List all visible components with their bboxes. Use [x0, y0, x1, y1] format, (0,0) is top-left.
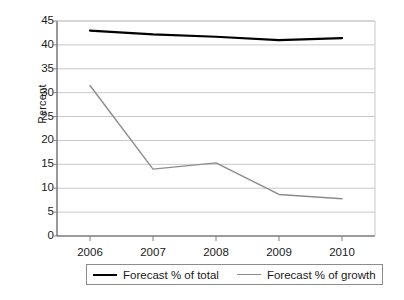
series-lines	[90, 31, 342, 199]
axis-ticks	[53, 21, 342, 241]
legend-line-swatch-growth	[237, 274, 261, 275]
axis-lines	[57, 21, 375, 236]
legend-label-total: Forecast % of total	[123, 269, 219, 281]
chart-legend: Forecast % of total Forecast % of growth	[86, 264, 383, 285]
legend-line-swatch-total	[93, 274, 117, 276]
line-chart: Percent 051015202530354045 2006200720082…	[0, 0, 404, 300]
series-line-total	[90, 31, 342, 41]
legend-entry-growth: Forecast % of growth	[237, 269, 376, 281]
series-line-growth	[90, 86, 342, 199]
gridlines	[57, 21, 375, 236]
legend-entry-total: Forecast % of total	[93, 269, 219, 281]
legend-label-growth: Forecast % of growth	[267, 269, 376, 281]
plot-area	[0, 0, 404, 300]
